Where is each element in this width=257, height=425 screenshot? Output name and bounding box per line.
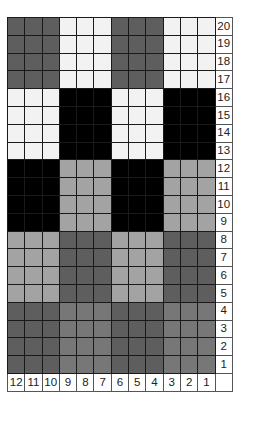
stitch-cell [25, 89, 42, 107]
stitch-cell [77, 231, 94, 249]
stitch-cell [180, 160, 197, 178]
stitch-cell [59, 160, 76, 178]
stitch-cell [25, 320, 42, 338]
stitch-cell [25, 18, 42, 36]
stitch-cell [180, 35, 197, 53]
stitch-cell [129, 35, 146, 53]
stitch-cell [8, 231, 25, 249]
chart-row: 16 [8, 89, 233, 107]
column-number-label: 7 [94, 373, 111, 391]
column-number-label: 4 [146, 373, 163, 391]
stitch-cell [198, 142, 215, 160]
stitch-cell [111, 106, 128, 124]
row-number-label: 12 [215, 160, 232, 178]
chart-row: 18 [8, 53, 233, 71]
row-number-label: 16 [215, 89, 232, 107]
stitch-cell [42, 213, 59, 231]
stitch-cell [146, 18, 163, 36]
row-number-label: 4 [215, 302, 232, 320]
stitch-cell [129, 18, 146, 36]
stitch-cell [129, 106, 146, 124]
stitch-cell [198, 106, 215, 124]
stitch-cell [198, 195, 215, 213]
stitch-cell [129, 53, 146, 71]
stitch-cell [129, 178, 146, 196]
stitch-cell [146, 71, 163, 89]
column-number-label: 1 [198, 373, 215, 391]
stitch-cell [77, 267, 94, 285]
stitch-cell [129, 231, 146, 249]
stitch-cell [42, 320, 59, 338]
stitch-cell [198, 338, 215, 356]
column-number-label: 10 [42, 373, 59, 391]
stitch-cell [8, 249, 25, 267]
stitch-cell [146, 106, 163, 124]
stitch-cell [25, 231, 42, 249]
stitch-cell [111, 302, 128, 320]
stitch-cell [129, 89, 146, 107]
stitch-cell [77, 53, 94, 71]
stitch-cell [129, 195, 146, 213]
stitch-cell [59, 249, 76, 267]
stitch-cell [129, 249, 146, 267]
row-number-label: 19 [215, 35, 232, 53]
stitch-cell [59, 178, 76, 196]
stitch-cell [198, 35, 215, 53]
stitch-cell [163, 302, 180, 320]
stitch-cell [77, 338, 94, 356]
stitch-cell [25, 267, 42, 285]
stitch-cell [129, 124, 146, 142]
stitch-cell [163, 320, 180, 338]
stitch-cell [94, 18, 111, 36]
stitch-cell [146, 284, 163, 302]
row-number-label: 7 [215, 249, 232, 267]
stitch-cell [180, 320, 197, 338]
stitch-cell [8, 213, 25, 231]
stitch-cell [8, 160, 25, 178]
stitch-cell [198, 89, 215, 107]
stitch-cell [163, 284, 180, 302]
stitch-cell [111, 124, 128, 142]
stitch-cell [146, 53, 163, 71]
stitch-cell [180, 284, 197, 302]
stitch-cell [163, 160, 180, 178]
stitch-cell [8, 89, 25, 107]
stitch-cell [180, 195, 197, 213]
stitch-cell [163, 249, 180, 267]
stitch-cell [8, 35, 25, 53]
stitch-cell [198, 267, 215, 285]
stitch-cell [25, 35, 42, 53]
row-number-label: 18 [215, 53, 232, 71]
stitch-cell [198, 356, 215, 374]
column-number-label: 9 [59, 373, 76, 391]
stitch-cell [111, 160, 128, 178]
stitch-cell [94, 249, 111, 267]
stitch-cell [25, 178, 42, 196]
row-number-label: 15 [215, 106, 232, 124]
stitch-cell [111, 178, 128, 196]
stitch-cell [198, 178, 215, 196]
chart-row: 8 [8, 231, 233, 249]
chart-row: 17 [8, 71, 233, 89]
stitch-cell [129, 160, 146, 178]
stitch-cell [146, 249, 163, 267]
stitch-cell [163, 338, 180, 356]
chart-row: 7 [8, 249, 233, 267]
stitch-cell [77, 124, 94, 142]
stitch-cell [59, 71, 76, 89]
stitch-cell [8, 320, 25, 338]
stitch-cell [146, 35, 163, 53]
column-number-row: 121110987654321 [8, 373, 233, 391]
stitch-cell [111, 320, 128, 338]
stitch-cell [198, 302, 215, 320]
chart-row: 19 [8, 35, 233, 53]
stitch-cell [146, 320, 163, 338]
stitch-cell [180, 356, 197, 374]
chart-row: 2 [8, 338, 233, 356]
stitch-cell [180, 53, 197, 71]
stitch-cell [163, 195, 180, 213]
stitch-cell [180, 142, 197, 160]
stitch-cell [111, 71, 128, 89]
stitch-cell [42, 106, 59, 124]
stitch-cell [146, 338, 163, 356]
